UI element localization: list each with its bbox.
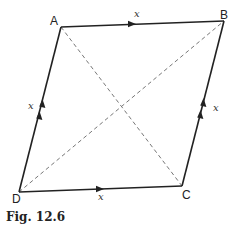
arrow-da-1-icon (39, 99, 45, 108)
edge-label-ab: x (134, 8, 140, 19)
parallelogram-diagram: A B C D x x x x Fig. 12.6 (0, 0, 244, 227)
arrow-ab-icon (128, 21, 136, 27)
edge-label-da: x (28, 100, 34, 111)
figure-caption: Fig. 12.6 (6, 210, 65, 224)
edge-da (19, 27, 61, 192)
vertex-label-a: A (50, 14, 58, 28)
vertex-label-b: B (220, 8, 228, 22)
vertex-label-c: C (182, 188, 191, 202)
arrow-da-2-icon (36, 111, 42, 120)
edge-label-dc: x (98, 191, 104, 202)
diagonal-db (19, 21, 224, 192)
edge-ab (61, 21, 224, 27)
edge-label-cb: x (213, 102, 219, 113)
vertex-label-d: D (12, 192, 21, 206)
arrow-cb-2-icon (197, 110, 203, 119)
arrow-cb-1-icon (200, 98, 206, 107)
